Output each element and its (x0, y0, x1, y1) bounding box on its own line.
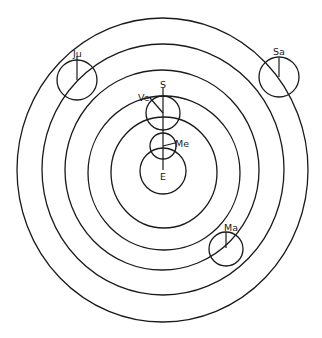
label-mars: Ma (224, 222, 238, 233)
label-mercury: Me (175, 138, 189, 149)
mercury-radius (163, 143, 175, 146)
deferent-ring-mars (65, 70, 259, 270)
label-sun: S (160, 79, 166, 90)
label-saturn: Sa (273, 46, 285, 57)
label-venus: Ve (138, 92, 150, 103)
label-jupiter: Ju (72, 48, 82, 59)
label-earth: E (160, 171, 166, 182)
venus-radius (150, 98, 163, 113)
planetary-diagram: S E Ve Me Ju Sa Ma (0, 0, 322, 338)
